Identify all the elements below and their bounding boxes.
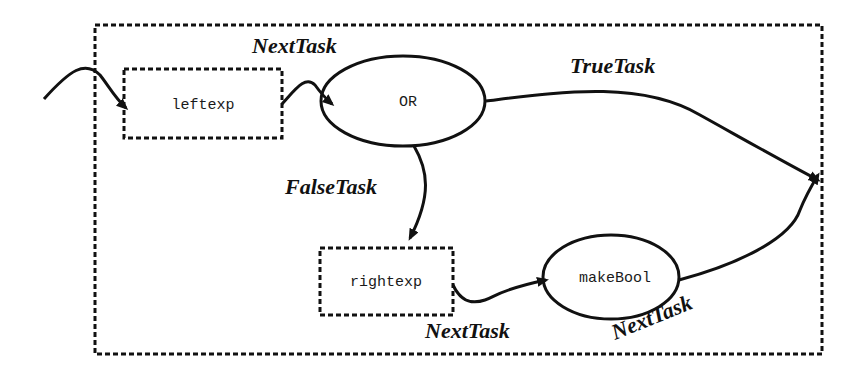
node-leftexp-label: leftexp — [171, 97, 234, 114]
node-or-label: OR — [399, 94, 417, 111]
label-nexttask-bottom: NextTask — [424, 318, 510, 343]
node-makebool-label: makeBool — [579, 270, 651, 287]
edge-makebool-out — [679, 175, 818, 280]
node-rightexp-label: rightexp — [350, 274, 422, 291]
label-falsetask: FalseTask — [284, 174, 377, 199]
label-truetask: TrueTask — [570, 53, 655, 78]
edge-or-falsetask — [410, 146, 426, 238]
label-nexttask-top: NextTask — [251, 33, 337, 58]
edge-rightexp-to-makebool — [453, 280, 546, 302]
node-rightexp: rightexp — [320, 248, 453, 315]
control-flow-diagram: leftexp OR rightexp makeBool NextTask Tr… — [0, 0, 862, 374]
node-or: OR — [321, 56, 485, 146]
edge-entry-to-leftexp — [44, 68, 126, 108]
node-leftexp: leftexp — [124, 69, 282, 138]
edge-or-truetask — [486, 91, 818, 180]
